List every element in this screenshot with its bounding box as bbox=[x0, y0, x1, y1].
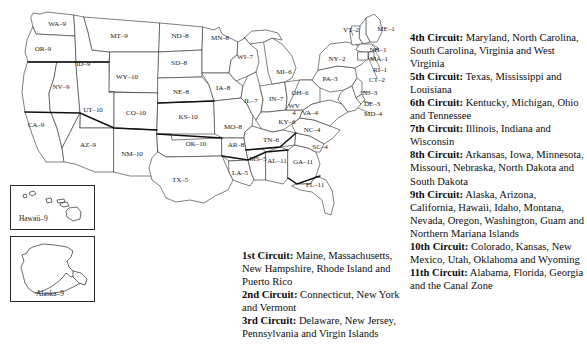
state-label: MS–5 bbox=[250, 156, 267, 163]
state-label: AL–11 bbox=[267, 158, 286, 165]
alaska-inset: Alaska–9 bbox=[10, 236, 95, 302]
circuit-name: 2nd Circuit: bbox=[242, 289, 297, 300]
legend-entry: 3rd Circuit: Delaware, New Jersey, Penns… bbox=[242, 314, 402, 340]
state-label: UT–10 bbox=[83, 107, 103, 114]
state-label: AZ–9 bbox=[80, 142, 96, 149]
legend-entry: 5th Circuit: Texas, Mississippi and Loui… bbox=[410, 70, 584, 96]
state-label: CA–9 bbox=[28, 122, 45, 129]
state-label: NE–8 bbox=[173, 89, 189, 96]
legend-entry: 8th Circuit: Arkansas, Iowa, Minnesota, … bbox=[410, 148, 584, 187]
state-label: KY–6 bbox=[279, 119, 296, 126]
state-label: ID–9 bbox=[76, 61, 90, 68]
legend-entry: 7th Circuit: Illinois, Indiana and Wisco… bbox=[410, 122, 584, 148]
state-label: AR–8 bbox=[228, 142, 245, 149]
state-label: FL–11 bbox=[306, 182, 324, 189]
state-shape-ct bbox=[358, 52, 368, 60]
island-maui bbox=[60, 202, 69, 207]
state-label: PA–3 bbox=[322, 76, 337, 83]
state-label: VA–4 bbox=[302, 110, 318, 117]
state-label: NC–4 bbox=[304, 127, 321, 134]
state-label: LA–5 bbox=[232, 170, 248, 177]
state-label: WI–7 bbox=[237, 54, 253, 61]
hawaii-inset: Hawaii–9 bbox=[10, 185, 95, 230]
legend-entry: 6th Circuit: Kentucky, Michigan, Ohio an… bbox=[410, 96, 584, 122]
state-label: ND–8 bbox=[172, 33, 189, 40]
legend-entry: 10th Circuit: Colorado, Kansas, New Mexi… bbox=[410, 240, 584, 266]
legend-column-right: 4th Circuit: Maryland, North Carolina, S… bbox=[410, 31, 584, 292]
circuit-name: 9th Circuit: bbox=[410, 189, 463, 200]
state-label: WY–10 bbox=[116, 74, 138, 81]
alaska-inset-label: Alaska–9 bbox=[36, 289, 64, 298]
island-oahu bbox=[46, 198, 52, 203]
legend-entry: 9th Circuit: Alaska, Arizona, California… bbox=[410, 188, 584, 240]
state-label: MO–8 bbox=[224, 124, 242, 131]
island-niihau bbox=[29, 191, 36, 196]
circuit-name: 1st Circuit: bbox=[242, 250, 293, 261]
state-label: IL–7 bbox=[244, 98, 257, 105]
state-label: IN–7 bbox=[269, 96, 283, 103]
state-label: RI–1 bbox=[373, 67, 387, 74]
state-label: NY–2 bbox=[329, 56, 346, 63]
circuit-name: 5th Circuit: bbox=[410, 71, 463, 82]
circuit-name: 6th Circuit: bbox=[410, 97, 463, 108]
state-label: MN–8 bbox=[211, 35, 229, 42]
alaska-panhandle bbox=[73, 271, 87, 285]
circuit-name: 10th Circuit: bbox=[410, 241, 468, 252]
island-kauai bbox=[23, 194, 27, 198]
state-label: MT–9 bbox=[110, 33, 127, 40]
state-label: SD–8 bbox=[171, 60, 187, 67]
state-label: SC–4 bbox=[312, 144, 327, 151]
legend-column-left: 1st Circuit: Maine, Massachusetts, New H… bbox=[242, 249, 402, 340]
state-label: MI–6 bbox=[276, 69, 291, 76]
legend-entry: 4th Circuit: Maryland, North Carolina, S… bbox=[410, 31, 584, 70]
state-label: OR–9 bbox=[35, 46, 52, 53]
state-label: DE–3 bbox=[364, 101, 380, 108]
screenshot-root: WA–9 OR–9 CA–9 NV–9 ID–9 MT–9 WY–10 UT–1… bbox=[0, 0, 587, 360]
state-shape-ut bbox=[76, 62, 114, 128]
state-label: OK–10 bbox=[186, 141, 206, 148]
circuit-name: 11th Circuit: bbox=[410, 267, 468, 278]
state-label: OH–6 bbox=[292, 90, 309, 97]
state-shape-mi bbox=[264, 38, 296, 84]
circuit-name: 7th Circuit: bbox=[410, 123, 463, 134]
circuit-name: 8th Circuit: bbox=[410, 149, 463, 160]
legend-entry: 2nd Circuit: Connecticut, New York and V… bbox=[242, 288, 402, 314]
state-label: TX–5 bbox=[172, 177, 188, 184]
legend-entry: 1st Circuit: Maine, Massachusetts, New H… bbox=[242, 249, 402, 288]
state-label: VT–2 bbox=[343, 27, 359, 34]
state-label: NH–1 bbox=[370, 47, 387, 54]
state-label: ME–1 bbox=[377, 26, 394, 33]
circuit-name: 3rd Circuit: bbox=[242, 315, 296, 326]
state-label: NM–10 bbox=[121, 151, 143, 158]
state-label: NV–9 bbox=[53, 84, 70, 91]
circuit-name: 4th Circuit: bbox=[410, 32, 463, 43]
state-label: NJ–3 bbox=[363, 90, 378, 97]
island-hawaii bbox=[66, 207, 81, 221]
state-label: TN–6 bbox=[263, 137, 279, 144]
alaska-mainland bbox=[21, 244, 77, 293]
state-label: MD–4 bbox=[364, 111, 382, 118]
state-label: WV 4 bbox=[286, 103, 302, 117]
state-label: WA–9 bbox=[48, 21, 66, 28]
state-label: KS–10 bbox=[178, 114, 197, 121]
state-label: CO–10 bbox=[126, 110, 146, 117]
state-label: CT–2 bbox=[369, 77, 385, 84]
hawaii-inset-label: Hawaii–9 bbox=[19, 214, 48, 223]
state-label: IA–8 bbox=[216, 85, 230, 92]
legend-entry: 11th Circuit: Alabama, Florida, Georgia … bbox=[410, 266, 584, 292]
state-shape-tx bbox=[149, 152, 233, 203]
state-label: GA–11 bbox=[293, 159, 313, 166]
state-label: MA–1 bbox=[370, 56, 388, 63]
